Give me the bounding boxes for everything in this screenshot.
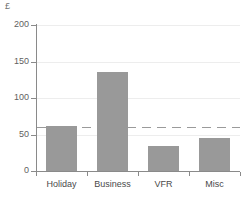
x-axis-tick [87, 172, 88, 176]
x-axis-label-vfr: VFR [138, 179, 189, 190]
y-axis-tick-label-text: 100 [3, 93, 29, 102]
y-axis-tick-label-text: 50 [3, 130, 29, 139]
bars-group [36, 25, 240, 171]
x-axis-label-holiday: Holiday [36, 179, 87, 190]
x-axis-label-misc: Misc [189, 179, 240, 190]
y-axis-tick-label: 50 [0, 130, 29, 139]
y-axis-tick-label: 200 [0, 20, 29, 29]
bar-misc [199, 138, 230, 171]
bar-holiday [46, 126, 77, 171]
bar-business [97, 72, 128, 171]
y-axis-unit-label: £ [5, 1, 10, 11]
y-axis-tick-label-text: 150 [3, 57, 29, 66]
y-axis-tick-label: 150 [0, 57, 29, 66]
bar-chart: £ 050100150200 HolidayBusinessVFRMisc [0, 0, 241, 206]
y-axis-tick-label-text: 200 [3, 20, 29, 29]
x-axis-label-business: Business [87, 179, 138, 190]
y-axis-tick-label: 0 [0, 166, 29, 175]
bar-vfr [148, 146, 179, 171]
y-axis-tick-label-text: 0 [3, 166, 29, 175]
x-axis-tick [189, 172, 190, 176]
y-axis-tick-label: 100 [0, 93, 29, 102]
x-axis-tick [138, 172, 139, 176]
x-axis-tick [36, 172, 37, 176]
x-axis-tick [240, 172, 241, 176]
